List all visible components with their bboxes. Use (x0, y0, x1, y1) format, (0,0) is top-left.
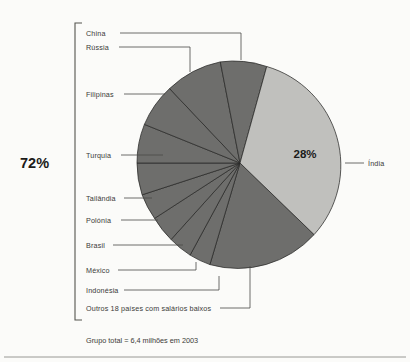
chart-caption: Grupo total = 6,4 milhões em 2003 (86, 336, 198, 345)
label-filipinas: Filipinas (86, 90, 114, 99)
label-russia: Rússia (86, 43, 109, 52)
left-bracket (75, 23, 82, 320)
leader-indonesia (124, 276, 219, 290)
pie-chart: China Rússia Filipinas Turquia Tailândia… (0, 0, 410, 362)
label-turquia: Turquia (86, 151, 111, 160)
label-china: China (86, 29, 106, 38)
chart-page: China Rússia Filipinas Turquia Tailândia… (0, 0, 410, 362)
label-brasil: Brasil (86, 241, 105, 250)
label-outros: Outros 18 países com salários baixos (86, 304, 212, 313)
pie-slices (137, 61, 341, 268)
leader-china (120, 33, 241, 60)
label-polonia: Polónia (86, 216, 111, 225)
leader-outros (220, 266, 250, 308)
pct-india-label: 28% (293, 148, 316, 160)
label-mexico: México (86, 266, 110, 275)
pct-left-label: 72% (20, 155, 49, 171)
leader-russia (119, 47, 190, 72)
label-tailandia: Tailândia (86, 194, 116, 203)
label-indonesia: Indonésia (86, 286, 119, 295)
leader-mexico (118, 262, 196, 270)
label-india: Índia (368, 159, 384, 168)
